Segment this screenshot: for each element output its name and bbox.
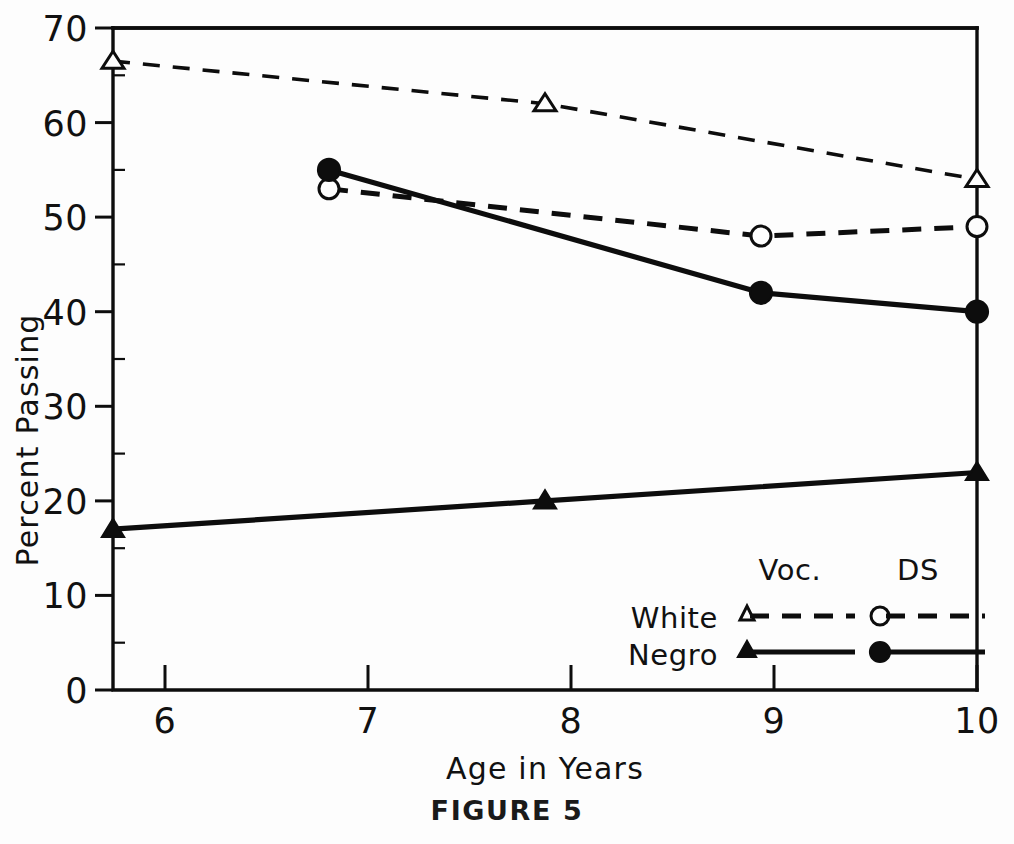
y-tick-label-70: 70 [42,9,88,49]
series-path [113,61,977,179]
y-axis-title: Percent Passing [10,313,45,566]
data-point-open-triangle [966,170,988,187]
axis-frame [113,28,977,690]
legend-header-voc: Voc. [759,553,822,587]
legend-row-label-white: White [631,601,718,635]
figure-caption: FIGURE 5 [431,795,584,826]
x-tick-label-9: 9 [763,701,786,741]
legend-row-label-negro: Negro [628,638,718,672]
y-tick-label-50: 50 [42,198,88,238]
data-point-open-circle [751,226,771,246]
chart-figure: 70 60 50 40 30 20 10 0 Percent Passing 6… [0,0,1014,844]
legend-header-ds: DS [897,553,939,587]
x-axis-title: Age in Years [446,751,644,786]
series-negro-ds [318,159,988,323]
x-tick-label-8: 8 [560,701,583,741]
y-tick-label-40: 40 [42,293,88,333]
y-axis-ticks [95,28,113,690]
data-point-filled-circle [750,282,772,304]
x-tick-label-10: 10 [954,701,1000,741]
y-tick-label-0: 0 [65,671,88,711]
series-path [329,170,977,312]
series-layer [102,51,988,537]
y-tick-label-30: 30 [42,387,88,427]
x-tick-label-6: 6 [154,701,177,741]
y-tick-label-60: 60 [42,104,88,144]
data-point-filled-circle [966,301,988,323]
legend: Voc. DS White Negro [628,553,985,672]
x-axis-ticks [165,665,977,690]
y-axis-minor-ticks [113,75,125,642]
data-point-filled-circle [318,159,340,181]
figure-page: 70 60 50 40 30 20 10 0 Percent Passing 6… [0,0,1014,844]
x-tick-label-7: 7 [357,701,380,741]
data-point-open-circle [967,217,987,237]
y-tick-label-20: 20 [42,482,88,522]
series-white-ds [319,179,987,246]
series-negro-voc [102,462,988,537]
figure-caption-container: FIGURE 5 [0,795,1014,826]
y-tick-label-10: 10 [42,576,88,616]
series-white-voc [102,51,988,186]
data-point-open-triangle [102,51,124,68]
